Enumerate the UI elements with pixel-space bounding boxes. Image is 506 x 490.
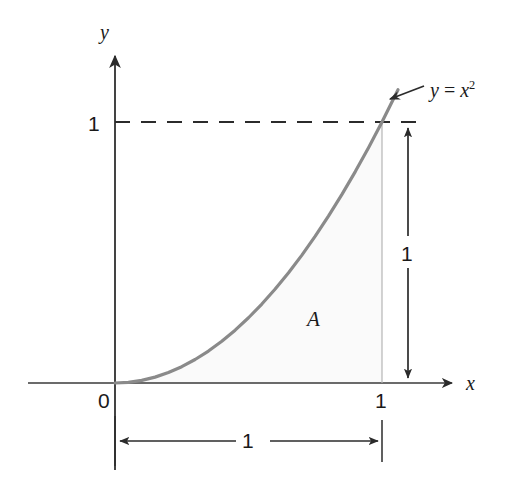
plot-canvas: [0, 0, 506, 490]
y-axis-tick-label-1: 1: [88, 113, 100, 134]
shaded-area-region: [115, 122, 382, 383]
equation-base: x: [460, 79, 469, 101]
x-axis-label: x: [466, 373, 475, 393]
figure-container: y x 1 1 0 A y = x2 1 1: [0, 0, 506, 490]
x-axis-tick-label-1: 1: [375, 390, 387, 411]
equation-left-side: y: [430, 79, 439, 101]
vertical-dimension-label: 1: [401, 243, 413, 264]
horizontal-dimension-label: 1: [242, 430, 254, 451]
origin-label: 0: [98, 390, 110, 411]
equation-exponent: 2: [469, 78, 475, 92]
y-axis-label: y: [100, 22, 109, 42]
equation-operator: =: [439, 79, 460, 101]
shaded-area-label: A: [307, 309, 320, 330]
curve-equation-label: y = x2: [430, 80, 475, 100]
